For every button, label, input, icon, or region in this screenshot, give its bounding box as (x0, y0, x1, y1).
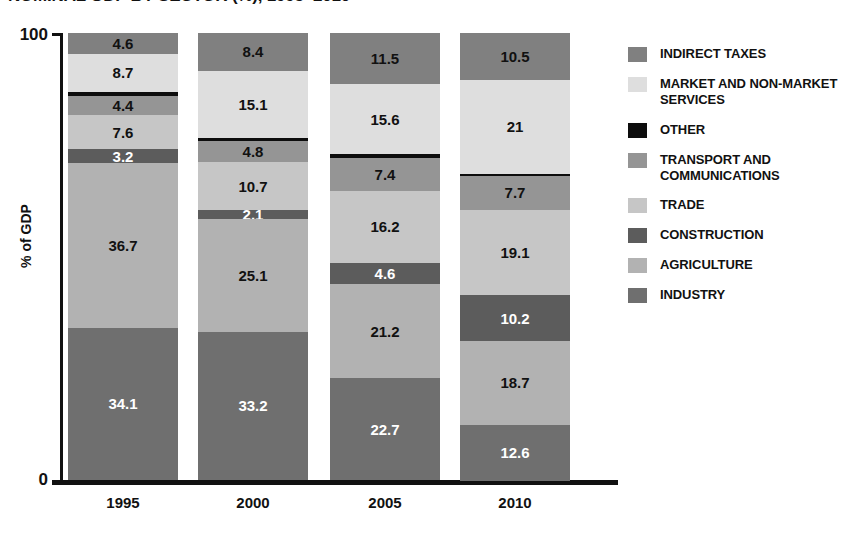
legend-item-market-and-non-market-services[interactable]: MARKET AND NON-MARKET SERVICES (628, 76, 852, 108)
stacked-bar-chart: NOMINAL GDP BY SECTOR (%), 1995–2010 100… (0, 0, 856, 547)
legend-swatch-construction (628, 228, 647, 243)
segment-2000-agriculture[interactable]: 25.1 (198, 219, 308, 331)
x-axis-tick-label-2000: 2000 (198, 494, 308, 511)
segment-value-label: 22.7 (370, 422, 399, 437)
segment-value-label: 8.4 (243, 44, 264, 59)
segment-2010-indirect-taxes[interactable]: 10.5 (460, 33, 570, 80)
segment-1995-trade[interactable]: 7.6 (68, 115, 178, 149)
y-axis-title: % of GDP (18, 166, 34, 306)
legend-label-agriculture: AGRICULTURE (660, 257, 753, 273)
legend-swatch-indirect-taxes (628, 47, 647, 62)
x-axis-tick-label-2010: 2010 (460, 494, 570, 511)
segment-value-label: 3.2 (113, 149, 134, 163)
legend-item-trade[interactable]: TRADE (628, 197, 852, 213)
chart-legend: INDIRECT TAXESMARKET AND NON-MARKET SERV… (628, 46, 852, 317)
segment-2000-industry[interactable]: 33.2 (198, 332, 308, 480)
segment-value-label: 4.4 (113, 98, 134, 113)
segment-value-label: 10.7 (238, 179, 267, 194)
segment-value-label: 19.1 (500, 245, 529, 260)
segment-value-label: 7.6 (113, 125, 134, 140)
segment-2000-transport-and-communications[interactable]: 4.8 (198, 141, 308, 162)
legend-swatch-agriculture (628, 258, 647, 273)
legend-label-industry: INDUSTRY (660, 287, 725, 303)
legend-item-construction[interactable]: CONSTRUCTION (628, 227, 852, 243)
segment-value-label: 7.4 (375, 167, 396, 182)
legend-swatch-market-and-non-market-services (628, 77, 647, 92)
legend-item-other[interactable]: OTHER (628, 122, 852, 138)
segment-value-label: 8.7 (113, 65, 134, 80)
segment-2010-transport-and-communications[interactable]: 7.7 (460, 176, 570, 210)
segment-2010-industry[interactable]: 12.6 (460, 425, 570, 481)
y-tick-mark-100 (52, 33, 62, 36)
legend-item-industry[interactable]: INDUSTRY (628, 287, 852, 303)
y-axis-tick-label-bottom: 0 (6, 470, 48, 490)
segment-value-label: 33.2 (238, 398, 267, 413)
segment-value-label: 4.6 (375, 266, 396, 281)
segment-1995-agriculture[interactable]: 36.7 (68, 163, 178, 327)
legend-label-other: OTHER (660, 122, 705, 138)
segment-2010-trade[interactable]: 19.1 (460, 210, 570, 295)
bar-2000[interactable]: 8.415.14.810.72.125.133.2 (198, 33, 308, 480)
segment-value-label: 10.5 (500, 49, 529, 64)
segment-value-label: 21 (507, 119, 524, 134)
plot-area: 4.68.74.47.63.236.734.18.415.14.810.72.1… (68, 33, 608, 480)
legend-label-trade: TRADE (660, 197, 704, 213)
bar-2005[interactable]: 11.515.67.416.24.621.222.7 (330, 33, 440, 480)
segment-value-label: 10.2 (500, 311, 529, 326)
segment-2010-agriculture[interactable]: 18.7 (460, 341, 570, 425)
segment-value-label: 34.1 (108, 396, 137, 411)
segment-2005-construction[interactable]: 4.6 (330, 263, 440, 284)
segment-1995-transport-and-communications[interactable]: 4.4 (68, 96, 178, 116)
legend-swatch-transport-and-communications (628, 153, 647, 168)
x-axis-tick-label-2005: 2005 (330, 494, 440, 511)
segment-1995-indirect-taxes[interactable]: 4.6 (68, 33, 178, 54)
legend-label-transport-and-communications: TRANSPORT AND COMMUNICATIONS (660, 152, 852, 184)
segment-2005-transport-and-communications[interactable]: 7.4 (330, 158, 440, 191)
legend-item-agriculture[interactable]: AGRICULTURE (628, 257, 852, 273)
segment-1995-industry[interactable]: 34.1 (68, 328, 178, 480)
x-axis-tick-label-1995: 1995 (68, 494, 178, 511)
segment-2010-construction[interactable]: 10.2 (460, 295, 570, 341)
segment-2000-construction[interactable]: 2.1 (198, 210, 308, 219)
legend-label-indirect-taxes: INDIRECT TAXES (660, 46, 766, 62)
segment-value-label: 12.6 (500, 445, 529, 460)
segment-value-label: 4.6 (113, 36, 134, 51)
segment-value-label: 2.1 (243, 210, 264, 219)
segment-2005-trade[interactable]: 16.2 (330, 191, 440, 263)
segment-value-label: 16.2 (370, 219, 399, 234)
legend-swatch-industry (628, 288, 647, 303)
segment-value-label: 11.5 (371, 51, 399, 66)
segment-value-label: 36.7 (108, 238, 137, 253)
segment-value-label: 4.8 (243, 144, 264, 159)
segment-1995-market-and-non-market-services[interactable]: 8.7 (68, 54, 178, 93)
segment-2005-indirect-taxes[interactable]: 11.5 (330, 33, 440, 84)
segment-value-label: 15.1 (238, 97, 267, 112)
legend-swatch-trade (628, 198, 647, 213)
y-axis-line (60, 33, 63, 482)
legend-label-construction: CONSTRUCTION (660, 227, 764, 243)
segment-2005-market-and-non-market-services[interactable]: 15.6 (330, 84, 440, 154)
segment-value-label: 21.2 (370, 324, 399, 339)
y-axis-tick-label-top: 100 (6, 25, 48, 45)
chart-title: NOMINAL GDP BY SECTOR (%), 1995–2010 (8, 0, 628, 4)
bar-1995[interactable]: 4.68.74.47.63.236.734.1 (68, 33, 178, 480)
segment-2005-industry[interactable]: 22.7 (330, 378, 440, 479)
segment-2000-indirect-taxes[interactable]: 8.4 (198, 33, 308, 71)
segment-value-label: 18.7 (500, 375, 529, 390)
legend-label-market-and-non-market-services: MARKET AND NON-MARKET SERVICES (660, 76, 852, 108)
bar-2010[interactable]: 10.5217.719.110.218.712.6 (460, 33, 570, 480)
segment-value-label: 25.1 (238, 268, 267, 283)
segment-2000-trade[interactable]: 10.7 (198, 162, 308, 210)
segment-value-label: 15.6 (370, 112, 399, 127)
segment-2010-market-and-non-market-services[interactable]: 21 (460, 80, 570, 174)
segment-1995-construction[interactable]: 3.2 (68, 149, 178, 163)
legend-swatch-other (628, 123, 647, 138)
segment-2000-market-and-non-market-services[interactable]: 15.1 (198, 71, 308, 138)
segment-value-label: 7.7 (505, 185, 526, 200)
segment-2005-agriculture[interactable]: 21.2 (330, 284, 440, 379)
legend-item-indirect-taxes[interactable]: INDIRECT TAXES (628, 46, 852, 62)
legend-item-transport-and-communications[interactable]: TRANSPORT AND COMMUNICATIONS (628, 152, 852, 184)
